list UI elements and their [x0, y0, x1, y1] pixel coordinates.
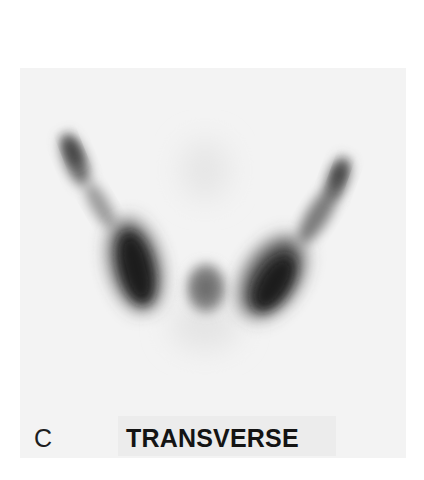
transverse-scan-image — [0, 0, 424, 480]
left-main-uptake — [101, 215, 170, 316]
left-upper-uptake — [54, 130, 95, 190]
central-uptake — [187, 264, 225, 312]
faint-haze-top — [180, 140, 230, 200]
figure-panel: C TRANSVERSE — [0, 0, 424, 480]
left-connecting-uptake — [79, 178, 121, 232]
panel-letter: C — [34, 424, 52, 452]
view-title: TRANSVERSE — [126, 423, 299, 453]
